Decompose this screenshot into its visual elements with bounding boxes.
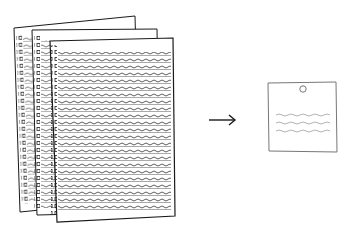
pinned-note-icon bbox=[268, 82, 337, 152]
page-front bbox=[50, 38, 175, 222]
arrow-right-icon bbox=[209, 115, 235, 125]
summary-illustration bbox=[0, 0, 351, 237]
